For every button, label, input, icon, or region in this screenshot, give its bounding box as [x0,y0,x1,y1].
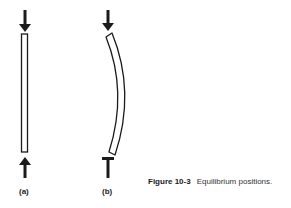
column-bent [106,33,125,155]
arrow-down-icon [102,10,114,31]
panel-a-label: (a) [19,187,29,196]
panel-a-straight-column [19,10,31,178]
caption-text: Equilibrium positions. [197,177,273,186]
panel-b-label: (b) [102,187,112,196]
arrow-up-icon [19,157,31,178]
arrow-down-icon [19,10,31,32]
figure-number: Figure 10-3 [148,177,191,186]
figure-caption: Figure 10-3Equilibrium positions. [148,177,272,186]
arrow-up-icon [102,157,114,178]
column-straight [22,34,28,152]
panel-b-buckled-column [102,10,125,178]
